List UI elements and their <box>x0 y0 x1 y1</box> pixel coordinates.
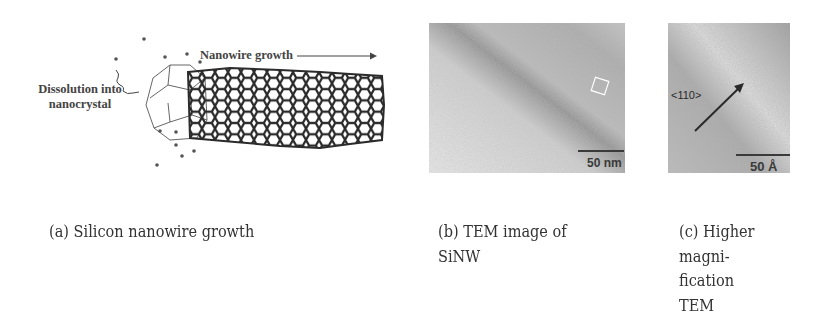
figure-c-tem-image: <110> 50 Å <box>668 23 790 173</box>
scale-bar <box>578 150 624 152</box>
scale-label-c: 50 Å <box>750 159 777 173</box>
figure-a-diagram: Dissolution into nanocrystal Nanowire gr… <box>20 10 400 180</box>
scale-label-b: 50 nm <box>587 156 622 170</box>
dissolution-label-line1: Dissolution into <box>38 82 122 96</box>
nanowire-lattice <box>188 68 384 148</box>
growth-arrow-icon <box>297 53 377 60</box>
direction-label: <110> <box>671 89 701 101</box>
caption-c: (c) Higher magni-fication TEM <box>679 220 758 318</box>
figure-b-tem-image: 50 nm <box>429 23 625 173</box>
caption-b: (b) TEM image of SiNW <box>438 220 605 269</box>
scale-bar <box>736 154 790 156</box>
nanowire-growth-schematic: Dissolution into nanocrystal Nanowire gr… <box>20 10 400 180</box>
growth-label: Nanowire growth <box>200 48 293 62</box>
caption-a: (a) Silicon nanowire growth <box>49 220 254 245</box>
dissolution-label-line2: nanocrystal <box>49 97 112 111</box>
